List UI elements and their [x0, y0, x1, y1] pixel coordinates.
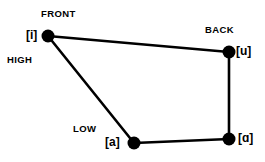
axis-label-back: BACK — [205, 25, 234, 35]
axis-label-front: FRONT — [41, 9, 76, 19]
axis-label-low: LOW — [73, 124, 96, 134]
vertex-dot-i — [42, 30, 55, 43]
vowel-label-a: [a] — [105, 136, 120, 148]
vowel-label-i: [i] — [26, 29, 37, 41]
vertex-dot-a — [128, 137, 141, 150]
edge-i-to-u — [48, 36, 229, 52]
vertex-dot-u — [223, 46, 236, 59]
vowel-label-script-a: [ɑ] — [238, 132, 253, 144]
quadrilateral-vertex-dots — [42, 30, 236, 150]
vowel-quadrilateral-diagram: FRONT BACK HIGH LOW [i] [u] [ɑ] [a] — [0, 0, 265, 162]
edge-script-a-to-a — [134, 139, 229, 143]
axis-label-high: HIGH — [7, 55, 32, 65]
vowel-label-u: [u] — [236, 45, 251, 57]
vertex-dot-script-a — [223, 133, 236, 146]
